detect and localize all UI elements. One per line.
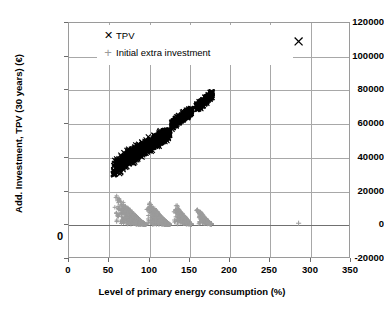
plot-area: ✕ TPV + Initial extra investment xyxy=(68,22,350,258)
legend-label-tpv: TPV xyxy=(115,30,134,41)
plus-marker-icon: + xyxy=(101,47,115,58)
x-tick-label: 150 xyxy=(169,265,209,275)
x-tick xyxy=(310,258,311,262)
x-tick-label: 300 xyxy=(290,265,330,275)
stray-zero-annotation: 0 xyxy=(57,230,63,242)
x-tick-label: 250 xyxy=(249,265,289,275)
x-tick-label: 50 xyxy=(88,265,128,275)
x-tick-label: 350 xyxy=(330,265,370,275)
x-tick xyxy=(269,258,270,262)
x-axis-title: Level of primary energy consumption (%) xyxy=(0,286,384,297)
chart-legend: ✕ TPV + Initial extra investment xyxy=(97,25,293,65)
y-axis-title: Add. Investment, TPV (30 years) (€) xyxy=(13,19,24,249)
x-tick-label: 0 xyxy=(48,265,88,275)
legend-label-initial-extra-investment: Initial extra investment xyxy=(115,47,211,58)
x-tick xyxy=(229,258,230,262)
x-tick-label: 200 xyxy=(209,265,249,275)
x-tick-label: 100 xyxy=(129,265,169,275)
x-marker-icon: ✕ xyxy=(101,30,115,41)
x-tick xyxy=(68,258,69,262)
legend-entry-tpv: ✕ TPV xyxy=(101,27,293,44)
scatter-chart: -20000020000400006000080000100000120000 … xyxy=(0,0,384,316)
x-tick xyxy=(149,258,150,262)
x-tick xyxy=(108,258,109,262)
legend-entry-initial-extra-investment: + Initial extra investment xyxy=(101,44,293,61)
x-tick xyxy=(189,258,190,262)
x-tick xyxy=(350,258,351,262)
